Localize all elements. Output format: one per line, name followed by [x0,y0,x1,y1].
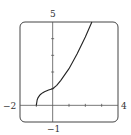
axis-ticks [36,39,101,107]
ymax-label: 5 [50,10,56,19]
graph-viewport [0,0,131,135]
function-curve [36,22,92,105]
xmin-label: −2 [3,102,16,111]
xmax-label: 4 [121,102,127,111]
viewing-window-frame [20,22,118,122]
ymin-label: −1 [47,125,60,134]
